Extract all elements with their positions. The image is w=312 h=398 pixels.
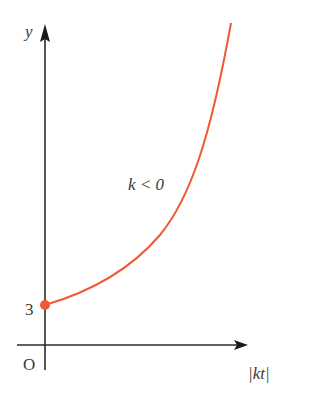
y-intercept-label: 3 [25,300,34,319]
start-point-marker [40,300,50,310]
growth-curve [45,23,231,305]
y-axis [40,24,50,370]
y-axis-label: y [23,22,33,41]
origin-label: O [23,355,35,374]
x-axis-label: |kt| [248,364,270,383]
condition-annotation: k < 0 [128,175,165,194]
x-axis [17,340,248,350]
exponential-graph: y 3 O |kt| k < 0 [0,0,312,398]
